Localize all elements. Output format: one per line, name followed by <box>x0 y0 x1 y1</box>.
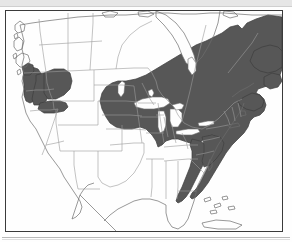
range-map-figure <box>5 10 283 232</box>
page-rule-bottom-shadow <box>2 239 290 240</box>
page-canvas <box>0 0 292 242</box>
scan-rule-top <box>0 6 292 7</box>
north-america-range-map <box>6 11 282 231</box>
page-rule-bottom <box>2 237 290 238</box>
